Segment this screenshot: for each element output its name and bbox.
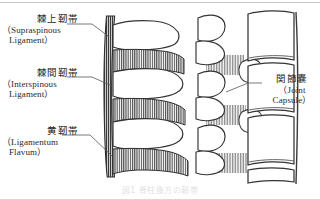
label-supraspinous-jp: 棘上靭帯 [2, 14, 80, 25]
label-ligamentum-flavum: 黄靭帯 （Ligamentum Flavum） [2, 126, 80, 157]
label-joint-capsule-jp: 関節嚢 [264, 74, 320, 85]
label-joint-capsule-en-line1: （Joint [264, 85, 320, 95]
figure-container: 棘上靭帯 （Supraspinous Ligament） 棘間靭帯 （Inter… [0, 0, 320, 200]
label-supraspinous-ligament: 棘上靭帯 （Supraspinous Ligament） [2, 14, 80, 45]
label-interspinous-en-line2: Ligament） [2, 89, 80, 99]
spinous-process-2 [113, 69, 183, 99]
label-joint-capsule-en-line2: Capsule） [264, 95, 320, 105]
label-joint-capsule: 関節嚢 （Joint Capsule） [264, 74, 320, 105]
interspinous-ligament-3 [113, 148, 188, 176]
artwork-group [62, 11, 298, 184]
label-interspinous-ligament: 棘間靭帯 （Interspinous Ligament） [2, 68, 80, 99]
label-supraspinous-en-line2: Ligament） [2, 35, 80, 45]
vertebral-arch-outlines [196, 15, 225, 175]
label-flavum-en-line1: （Ligamentum [2, 137, 80, 147]
label-interspinous-en-line1: （Interspinous [2, 79, 80, 89]
bottom-divider [0, 199, 320, 200]
label-flavum-jp: 黄靭帯 [2, 126, 80, 137]
spinous-process-3 [113, 119, 183, 149]
label-supraspinous-en-line1: （Supraspinous [2, 25, 80, 35]
figure-caption: 図1 脊柱後方の靭帯 [0, 184, 320, 195]
label-flavum-en-line2: Flavum） [2, 147, 80, 157]
label-interspinous-jp: 棘間靭帯 [2, 68, 80, 79]
spinous-process-1 [113, 21, 179, 50]
